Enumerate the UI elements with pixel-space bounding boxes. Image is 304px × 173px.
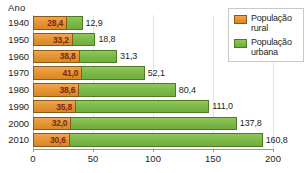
x-axis-tick-label: 50: [88, 153, 99, 164]
bar-segment-rural[interactable]: 28,4: [33, 16, 67, 30]
y-axis-category-label: 1950: [0, 34, 29, 45]
bar-segment-urbana[interactable]: [82, 66, 145, 80]
bar-value-label-urbana: 31,3: [120, 51, 137, 61]
bar-row: 199035,8111,0: [33, 99, 273, 116]
bar-value-label-rural: 33,2: [53, 35, 72, 45]
legend-item-rural[interactable]: População rural: [234, 14, 303, 33]
bar-segment-urbana[interactable]: [71, 117, 236, 131]
bar-value-label-rural: 32,0: [52, 118, 71, 128]
bar-value-label-urbana: 80,4: [179, 85, 196, 95]
x-axis-tick-label: 200: [265, 153, 281, 164]
x-axis-tick: [213, 149, 214, 152]
bar-segment-rural[interactable]: 32,0: [33, 117, 71, 131]
bar-segment-rural[interactable]: 30,6: [33, 133, 70, 147]
legend-item-urbana[interactable]: População urbana: [234, 38, 303, 57]
y-axis-category-label: 1970: [0, 67, 29, 78]
legend-swatch-rural-icon: [234, 15, 247, 24]
x-axis-tick: [273, 149, 274, 152]
x-axis-tick: [33, 149, 34, 152]
legend-label-urbana: População urbana: [251, 38, 303, 57]
bar-value-label-urbana: 52,1: [148, 68, 165, 78]
bar-value-label-rural: 30,6: [50, 135, 69, 145]
bar-segment-urbana[interactable]: [76, 100, 209, 114]
y-axis-category-label: 1980: [0, 84, 29, 95]
bar-value-label-urbana: 12,9: [86, 18, 103, 28]
legend-label-rural: População rural: [251, 14, 303, 33]
bar-value-label-rural: 41,0: [62, 68, 81, 78]
bar-segment-urbana[interactable]: [67, 16, 82, 30]
bar-row: 200032,0137,8: [33, 116, 273, 133]
bar-segment-rural[interactable]: 41,0: [33, 66, 82, 80]
bar-value-label-rural: 38,8: [60, 51, 79, 61]
bar-segment-rural[interactable]: 38,8: [33, 50, 80, 64]
bar-segment-rural[interactable]: 38,6: [33, 83, 79, 97]
bar-value-label-rural: 38,6: [60, 85, 79, 95]
stacked-bar-chart: Ano 194028,412,9195033,218,8196038,831,3…: [0, 0, 304, 173]
bar-segment-urbana[interactable]: [80, 50, 118, 64]
bar-segment-urbana[interactable]: [79, 83, 175, 97]
y-axis-category-label: 2000: [0, 118, 29, 129]
legend-swatch-urbana-icon: [234, 39, 247, 48]
bar-row: 198038,680,4: [33, 82, 273, 99]
bar-value-label-rural: 28,4: [47, 18, 66, 28]
bar-segment-urbana[interactable]: [70, 133, 263, 147]
bar-value-label-rural: 35,8: [56, 102, 75, 112]
x-axis-tick-label: 150: [205, 153, 221, 164]
y-axis-category-label: 2010: [0, 134, 29, 145]
x-axis-tick-label: 0: [30, 153, 35, 164]
y-axis-title: Ano: [8, 2, 26, 13]
bar-segment-rural[interactable]: 33,2: [33, 33, 73, 47]
y-axis-category-label: 1940: [0, 17, 29, 28]
x-axis-tick: [93, 149, 94, 152]
x-axis-tick-label: 100: [145, 153, 161, 164]
bar-segment-rural[interactable]: 35,8: [33, 100, 76, 114]
bar-segment-urbana[interactable]: [73, 33, 96, 47]
y-axis-category-label: 1960: [0, 51, 29, 62]
bar-value-label-urbana: 160,8: [266, 135, 288, 145]
y-axis-category-label: 1990: [0, 101, 29, 112]
legend: População rural População urbana: [228, 8, 304, 62]
bar-value-label-urbana: 18,8: [98, 34, 115, 44]
bar-value-label-urbana: 111,0: [212, 101, 233, 111]
bar-row: 201030,6160,8: [33, 132, 273, 149]
bar-row: 197041,052,1: [33, 65, 273, 82]
x-axis-tick: [153, 149, 154, 152]
bar-value-label-urbana: 137,8: [240, 118, 262, 128]
